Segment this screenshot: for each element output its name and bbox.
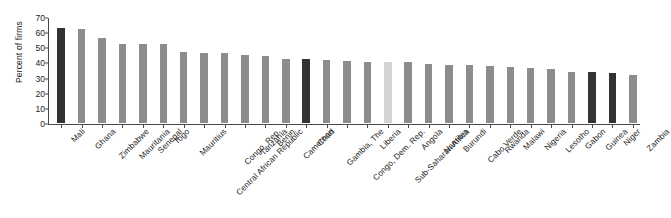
bar: [78, 29, 86, 123]
x-tick-label: Ghana: [93, 127, 117, 151]
x-tick-label-text: Mauritius: [198, 127, 228, 157]
x-tick-label: Zambia: [645, 127, 671, 153]
x-tick-label: Chad: [316, 127, 336, 147]
x-tick-label: Mali: [70, 127, 87, 144]
bar: [568, 72, 576, 123]
bar: [364, 62, 372, 123]
y-tick-mark: [45, 124, 48, 125]
bar: [221, 53, 229, 123]
y-axis-title: Percent of firms: [14, 2, 24, 102]
x-axis-labels: MaliGhanaZimbabweMauritaniaSenegalTogoMa…: [48, 127, 640, 217]
y-tick-label: 70: [36, 13, 45, 23]
x-tick-label-text: Chad: [316, 127, 336, 147]
bar: [404, 62, 412, 123]
y-tick-mark: [45, 78, 48, 79]
bar: [466, 65, 474, 123]
x-tick-label: Mauritius: [198, 127, 228, 157]
bar: [547, 69, 555, 124]
bar: [527, 68, 535, 123]
y-tick-mark: [45, 93, 48, 94]
bar: [425, 64, 433, 123]
y-tick-label: 40: [36, 58, 45, 68]
bar: [629, 75, 637, 123]
bar: [160, 44, 168, 123]
y-tick-mark: [45, 33, 48, 34]
y-tick-label: 30: [36, 74, 45, 84]
bar: [180, 52, 188, 123]
bar: [262, 56, 270, 123]
bar: [302, 59, 310, 123]
y-tick-mark: [45, 48, 48, 49]
x-tick-label-text: Mali: [70, 127, 87, 144]
bar: [323, 60, 331, 123]
bar: [588, 72, 596, 123]
bar: [445, 65, 453, 123]
y-axis-line: [48, 18, 49, 125]
bar: [98, 38, 106, 123]
y-tick-mark: [45, 108, 48, 109]
y-tick-label: 10: [36, 104, 45, 114]
x-tick-label-text: Gambia, The: [345, 127, 386, 168]
bar: [486, 66, 494, 123]
bar: [57, 28, 65, 123]
x-tick-label-text: Ghana: [93, 127, 117, 151]
bar: [609, 73, 617, 123]
plot-area: 010203040506070: [48, 18, 640, 124]
bar: [119, 44, 127, 124]
y-tick-mark: [45, 18, 48, 19]
bar: [200, 53, 208, 123]
x-tick-label: Gambia, The: [345, 127, 386, 168]
bar: [139, 44, 147, 123]
y-tick-label: 20: [36, 89, 45, 99]
y-tick-mark: [45, 63, 48, 64]
bar: [282, 59, 290, 123]
x-tick-label-text: Zambia: [645, 127, 671, 153]
y-tick-label: 60: [36, 28, 45, 38]
bar: [384, 62, 392, 123]
bar: [241, 55, 249, 123]
bar: [507, 67, 515, 123]
bar: [343, 61, 351, 123]
y-tick-label: 50: [36, 43, 45, 53]
